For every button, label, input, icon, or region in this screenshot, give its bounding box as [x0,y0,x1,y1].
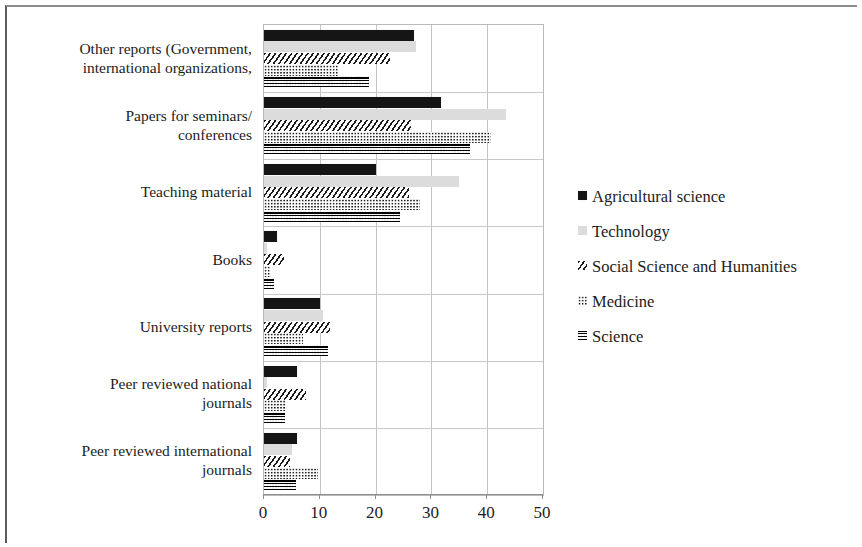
category-label: Other reports (Government,international … [8,39,252,77]
category-label-line: Peer reviewed international [8,441,252,460]
bar-agricultural-science [264,97,441,108]
dense-checker-swatch [578,331,587,340]
category-label: Books [8,250,252,269]
x-axis-tick-label: 10 [299,503,339,523]
category-label-line: Teaching material [8,182,252,201]
bar-group [264,226,543,293]
bar-social-science-and-humanities [264,53,390,64]
light-dots-swatch [578,296,587,305]
x-axis-tick-mark [542,494,543,499]
x-axis-tick-mark [486,494,487,499]
bar-medicine [264,333,303,344]
bar-technology [264,377,267,388]
bar-agricultural-science [264,366,297,377]
bar-group [264,25,543,92]
x-axis-tick-mark [375,494,376,499]
bar-medicine [264,266,271,277]
x-axis-tick-label: 50 [522,503,562,523]
bar-group [264,159,543,226]
category-label: Peer reviewed nationaljournals [8,374,252,412]
legend-label: Agricultural science [592,186,725,207]
bar-science [264,479,296,490]
bar-technology [264,176,459,187]
plot-area [263,24,544,496]
legend-label: Social Science and Humanities [592,256,797,277]
bar-medicine [264,468,318,479]
bar-group [264,92,543,159]
bar-science [264,278,274,289]
x-axis-tick-label: 30 [410,503,450,523]
bar-social-science-and-humanities [264,187,409,198]
bar-science [264,143,470,154]
bar-technology [264,41,416,52]
bar-social-science-and-humanities [264,389,306,400]
bar-technology [264,109,506,120]
category-label-line: conferences [8,125,252,144]
bar-medicine [264,199,420,210]
bar-agricultural-science [264,30,414,41]
bar-agricultural-science [264,164,376,175]
legend-label: Science [592,326,643,347]
bar-technology [264,243,267,254]
bar-science [264,345,328,356]
bar-science [264,412,285,423]
solid-black-swatch [578,191,587,200]
category-label-line: Peer reviewed national [8,374,252,393]
category-label-line: Papers for seminars/ [8,106,252,125]
category-label: University reports [8,317,252,336]
bar-medicine [264,132,491,143]
bar-social-science-and-humanities [264,120,411,131]
x-axis-line [263,494,543,495]
category-label-line: Other reports (Government, [8,39,252,58]
legend-label: Medicine [592,291,654,312]
bar-medicine [264,400,286,411]
bar-group [264,428,543,495]
x-axis-tick-mark [263,494,264,499]
bar-agricultural-science [264,231,277,242]
bar-social-science-and-humanities [264,322,330,333]
bar-social-science-and-humanities [264,456,290,467]
x-axis-tick-mark [430,494,431,499]
bar-medicine [264,65,339,76]
light-gray-swatch [578,226,587,235]
bar-social-science-and-humanities [264,254,284,265]
category-label-line: University reports [8,317,252,336]
bar-technology [264,444,292,455]
legend-label: Technology [592,221,670,242]
bar-chart-figure: Peer reviewed internationaljournalsPeer … [0,0,862,547]
category-label-line: journals [8,460,252,479]
bar-group [264,294,543,361]
category-label-line: journals [8,393,252,412]
x-axis-tick-mark [319,494,320,499]
bar-technology [264,310,323,321]
category-label-line: Books [8,250,252,269]
x-axis-tick-label: 20 [355,503,395,523]
category-label: Peer reviewed internationaljournals [8,441,252,479]
bar-science [264,211,400,222]
category-label-line: international organizations, [8,58,252,77]
bar-group [264,361,543,428]
x-axis-tick-label: 0 [243,503,283,523]
bar-agricultural-science [264,433,297,444]
x-axis-tick-label: 40 [466,503,506,523]
bar-science [264,76,369,87]
bar-agricultural-science [264,298,320,309]
category-label: Teaching material [8,182,252,201]
diagonal-hatch-swatch [578,261,587,270]
category-label: Papers for seminars/conferences [8,106,252,144]
category-axis-labels: Peer reviewed internationaljournalsPeer … [8,24,258,494]
